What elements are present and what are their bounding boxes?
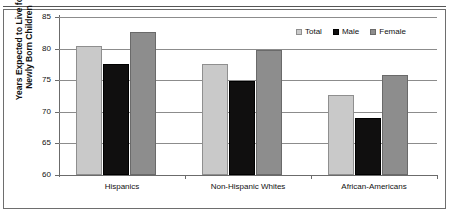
legend-swatch-male-icon	[333, 29, 339, 35]
bar-african-americans-female	[382, 75, 408, 175]
y-axis-tick	[55, 175, 59, 176]
x-axis-separator-tick	[185, 175, 186, 179]
y-axis-tick	[55, 143, 59, 144]
legend-label-male: Male	[342, 27, 359, 36]
x-axis-category-label: Hispanics	[105, 182, 140, 191]
y-axis-tick-label: 60	[33, 170, 51, 179]
y-axis-tick	[55, 17, 59, 18]
legend-label-total: Total	[305, 27, 322, 36]
legend-entry-female: Female	[370, 27, 406, 36]
y-axis-tick-label: 85	[33, 12, 51, 21]
chart-legend: Total Male Female	[296, 27, 406, 36]
x-axis-category-label: African-Americans	[341, 182, 406, 191]
y-axis-tick	[55, 80, 59, 81]
bar-non-hispanic-whites-female	[256, 50, 282, 175]
legend-swatch-total-icon	[296, 29, 302, 35]
bar-hispanics-female	[130, 32, 156, 175]
bar-african-americans-total	[328, 95, 354, 175]
legend-entry-total: Total	[296, 27, 322, 36]
bar-hispanics-male	[103, 64, 129, 175]
bar-hispanics-total	[76, 46, 102, 175]
x-axis-end-tick	[437, 175, 438, 179]
x-axis-separator-tick	[311, 175, 312, 179]
gridline	[59, 17, 437, 18]
y-axis-tick-label: 70	[33, 107, 51, 116]
x-axis-category-label: Non-Hispanic Whites	[211, 182, 286, 191]
plot-area	[59, 17, 437, 175]
chart-root: Years Expected to Live for Newly Born Ch…	[0, 0, 449, 214]
gridline	[59, 49, 437, 50]
legend-swatch-female-icon	[370, 29, 376, 35]
y-axis-tick	[55, 112, 59, 113]
legend-label-female: Female	[379, 27, 406, 36]
y-axis-tick	[55, 49, 59, 50]
legend-entry-male: Male	[333, 27, 359, 36]
y-axis-tick-label: 75	[33, 75, 51, 84]
bar-non-hispanic-whites-total	[202, 64, 228, 175]
y-axis-tick-label: 80	[33, 44, 51, 53]
x-axis-line	[59, 175, 438, 176]
y-axis-title-line-1: Years Expected to Live for	[14, 0, 25, 100]
top-divider-rule	[3, 6, 446, 7]
bar-african-americans-male	[355, 118, 381, 176]
bar-non-hispanic-whites-male	[229, 81, 255, 175]
y-axis-tick-label: 65	[33, 138, 51, 147]
